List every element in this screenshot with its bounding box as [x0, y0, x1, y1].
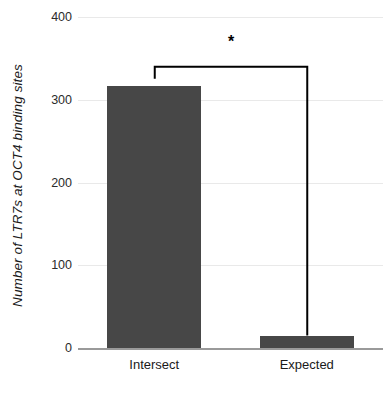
x-axis-baseline: [78, 348, 383, 350]
y-tick-label-300: 300: [28, 93, 72, 107]
x-tick-label-intersect: Intersect: [84, 357, 224, 372]
y-axis-title-label: Number of LTR7s at OCT4 binding sites: [10, 64, 25, 307]
x-tick-label-expected: Expected: [237, 357, 377, 372]
bar-chart-figure: Number of LTR7s at OCT4 binding sites 40…: [0, 0, 389, 399]
plot-area: [78, 17, 383, 348]
y-tick-label-100: 100: [28, 258, 72, 272]
bar-expected[interactable]: [260, 336, 354, 348]
significance-asterisk: *: [216, 34, 246, 50]
y-tick-label-0: 0: [28, 341, 72, 355]
gridline-400: [78, 17, 383, 18]
bar-intersect[interactable]: [107, 86, 201, 348]
y-tick-label-400: 400: [28, 10, 72, 24]
y-axis-ticks: 400 300 200 100 0: [26, 0, 72, 399]
y-tick-label-200: 200: [28, 176, 72, 190]
